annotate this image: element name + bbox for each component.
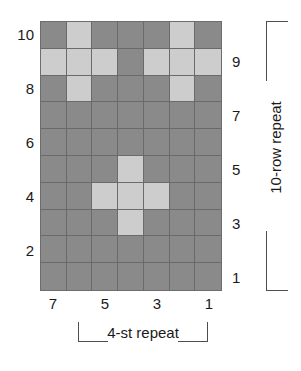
chart-cell[interactable] xyxy=(144,49,170,76)
chart-cell[interactable] xyxy=(67,156,93,183)
chart-cell[interactable] xyxy=(41,22,67,49)
stitch-repeat-label: 4-st repeat xyxy=(78,324,208,341)
chart-cell[interactable] xyxy=(144,129,170,156)
chart-cell[interactable] xyxy=(170,183,196,210)
chart-cell[interactable] xyxy=(67,22,93,49)
chart-cell[interactable] xyxy=(41,76,67,103)
chart-cell[interactable] xyxy=(170,76,196,103)
chart-cell[interactable] xyxy=(118,236,144,263)
stitch-repeat-bracket: 4-st repeat xyxy=(78,322,208,344)
chart-cell[interactable] xyxy=(144,236,170,263)
chart-cell[interactable] xyxy=(41,102,67,129)
chart-cell[interactable] xyxy=(41,49,67,76)
row-number-right-9: 9 xyxy=(232,54,240,69)
chart-cell[interactable] xyxy=(67,102,93,129)
chart-cell[interactable] xyxy=(170,210,196,237)
chart-cell[interactable] xyxy=(195,183,221,210)
chart-cell[interactable] xyxy=(170,22,196,49)
chart-cell[interactable] xyxy=(195,210,221,237)
chart-cell[interactable] xyxy=(41,263,67,290)
chart-cell[interactable] xyxy=(41,183,67,210)
row-number-left-10: 10 xyxy=(17,27,34,42)
chart-cell[interactable] xyxy=(41,129,67,156)
chart-cell[interactable] xyxy=(144,210,170,237)
chart-cell[interactable] xyxy=(170,263,196,290)
stitch-number-5: 5 xyxy=(92,296,118,311)
row-number-left-8: 8 xyxy=(26,81,34,96)
row-number-right-3: 3 xyxy=(232,216,240,231)
chart-cell[interactable] xyxy=(170,236,196,263)
row-number-right-7: 7 xyxy=(232,108,240,123)
chart-grid xyxy=(41,22,221,290)
row-number-left-4: 4 xyxy=(26,189,34,204)
chart-cell[interactable] xyxy=(144,22,170,49)
row-number-right-5: 5 xyxy=(232,162,240,177)
chart-cell[interactable] xyxy=(195,156,221,183)
row-number-left-6: 6 xyxy=(26,135,34,150)
chart-cell[interactable] xyxy=(92,156,118,183)
chart-cell[interactable] xyxy=(118,76,144,103)
chart-cell[interactable] xyxy=(118,263,144,290)
chart-cell[interactable] xyxy=(41,156,67,183)
chart-cell[interactable] xyxy=(195,22,221,49)
stitch-number-1: 1 xyxy=(196,296,222,311)
chart-cell[interactable] xyxy=(118,22,144,49)
bracket-bottom-arm-icon xyxy=(266,290,288,291)
chart-cell[interactable] xyxy=(41,236,67,263)
chart-grid-wrapper xyxy=(40,21,222,291)
row-number-left-2: 2 xyxy=(26,243,34,258)
chart-cell[interactable] xyxy=(144,76,170,103)
chart-cell[interactable] xyxy=(118,129,144,156)
chart-cell[interactable] xyxy=(144,156,170,183)
chart-cell[interactable] xyxy=(92,236,118,263)
stitch-number-3: 3 xyxy=(144,296,170,311)
chart-cell[interactable] xyxy=(92,102,118,129)
chart-cell[interactable] xyxy=(195,102,221,129)
chart-cell[interactable] xyxy=(118,102,144,129)
chart-cell[interactable] xyxy=(144,263,170,290)
row-number-right-1: 1 xyxy=(232,270,240,285)
chart-cell[interactable] xyxy=(118,49,144,76)
chart-cell[interactable] xyxy=(144,102,170,129)
chart-cell[interactable] xyxy=(92,210,118,237)
chart-cell[interactable] xyxy=(195,263,221,290)
chart-cell[interactable] xyxy=(92,22,118,49)
chart-cell[interactable] xyxy=(170,156,196,183)
chart-cell[interactable] xyxy=(170,102,196,129)
chart-cell[interactable] xyxy=(144,183,170,210)
row-repeat-label: 10-row repeat xyxy=(267,63,284,233)
bracket-top-arm-icon xyxy=(266,21,288,22)
chart-cell[interactable] xyxy=(195,76,221,103)
row-repeat-bracket: 10-row repeat xyxy=(258,21,288,291)
chart-cell[interactable] xyxy=(92,263,118,290)
chart-cell[interactable] xyxy=(92,183,118,210)
chart-cell[interactable] xyxy=(41,210,67,237)
chart-cell[interactable] xyxy=(67,263,93,290)
stitch-number-7: 7 xyxy=(40,296,66,311)
chart-cell[interactable] xyxy=(170,49,196,76)
chart-cell[interactable] xyxy=(92,76,118,103)
chart-cell[interactable] xyxy=(92,49,118,76)
chart-cell[interactable] xyxy=(67,49,93,76)
chart-cell[interactable] xyxy=(195,49,221,76)
bracket-left-foot-icon xyxy=(78,341,108,342)
bracket-right-foot-icon xyxy=(178,341,208,342)
chart-cell[interactable] xyxy=(67,183,93,210)
chart-cell[interactable] xyxy=(92,129,118,156)
chart-cell[interactable] xyxy=(170,129,196,156)
chart-cell[interactable] xyxy=(67,236,93,263)
chart-cell[interactable] xyxy=(195,236,221,263)
chart-cell[interactable] xyxy=(67,210,93,237)
chart-cell[interactable] xyxy=(118,183,144,210)
chart-cell[interactable] xyxy=(67,76,93,103)
chart-cell[interactable] xyxy=(118,210,144,237)
chart-cell[interactable] xyxy=(67,129,93,156)
chart-cell[interactable] xyxy=(195,129,221,156)
knitting-chart: 108642 97531 7531 4-st repeat 10-row rep… xyxy=(0,0,301,371)
bracket-bottom-stem-icon xyxy=(266,231,267,291)
chart-cell[interactable] xyxy=(118,156,144,183)
